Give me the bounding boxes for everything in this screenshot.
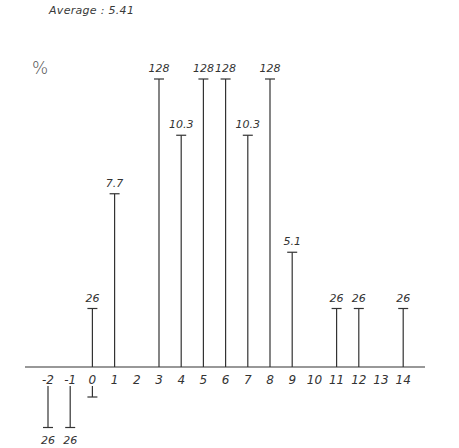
- value-label: 26: [63, 434, 77, 447]
- x-tick-label: 5: [200, 373, 208, 387]
- value-label: 26: [41, 434, 55, 447]
- x-tick-label: 4: [177, 373, 185, 387]
- x-tick-label: 9: [288, 373, 296, 387]
- value-label: 26: [396, 292, 410, 305]
- value-label: 5.1: [283, 235, 301, 248]
- value-label: 7.7: [106, 177, 124, 190]
- value-label: 128: [215, 62, 236, 75]
- bar-chart: -226-12602617.723128410.351286128710.381…: [0, 0, 459, 448]
- x-tick-label: 13: [373, 373, 388, 387]
- x-tick-label: 3: [155, 373, 163, 387]
- x-tick-label: -2: [42, 373, 54, 387]
- x-tick-label: -1: [64, 373, 76, 387]
- value-label: 128: [260, 62, 281, 75]
- value-label: 26: [85, 292, 99, 305]
- x-tick-label: 6: [222, 373, 230, 387]
- x-tick-label: 8: [266, 373, 274, 387]
- value-label: 26: [352, 292, 366, 305]
- x-tick-label: 14: [396, 373, 411, 387]
- x-tick-label: 1: [111, 373, 119, 387]
- x-tick-label: 7: [244, 373, 252, 387]
- x-tick-label: 10: [307, 373, 323, 387]
- x-tick-label: 12: [351, 373, 366, 387]
- value-label: 26: [330, 292, 344, 305]
- value-label: 10.3: [236, 118, 261, 131]
- value-label: 128: [149, 62, 170, 75]
- value-label: 10.3: [169, 118, 194, 131]
- value-label: 128: [193, 62, 214, 75]
- x-tick-label: 2: [133, 373, 141, 387]
- x-tick-label: 11: [329, 373, 344, 387]
- x-tick-label: 0: [89, 373, 97, 387]
